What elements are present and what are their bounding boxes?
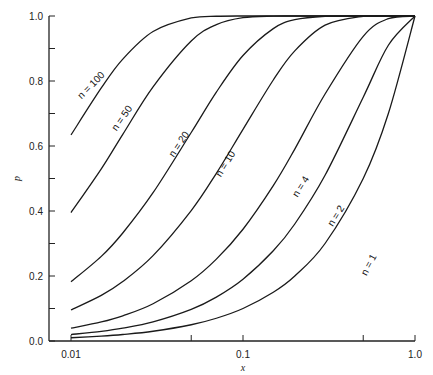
curve-label-n-20: n = 20 (166, 129, 191, 159)
curve-n-20 (71, 16, 415, 282)
curves (71, 16, 415, 338)
curve-label-n-1: n = 1 (358, 252, 378, 277)
y-tick-label: 0.0 (29, 336, 43, 347)
curve-n-2 (71, 16, 415, 335)
curve-label-n-10: n = 10 (213, 148, 237, 178)
y-tick-label: 1.0 (29, 11, 43, 22)
x-axis-title: x (240, 362, 246, 373)
x-tick-label: 1.0 (408, 349, 422, 360)
x-tick-label: 0.01 (61, 349, 81, 360)
probability-chart: 0.00.20.40.60.81.00.010.11.0xp n = 1n = … (0, 0, 433, 375)
y-tick-label: 0.2 (29, 271, 43, 282)
curve-labels: n = 1n = 2n = 4n = 10n = 20n = 50n = 100 (75, 69, 379, 277)
curve-label-n-100: n = 100 (75, 69, 107, 101)
curve-label-n-50: n = 50 (109, 103, 134, 133)
curve-n-1 (71, 16, 415, 338)
y-tick-label: 0.6 (29, 141, 43, 152)
curve-label-n-4: n = 4 (290, 174, 311, 199)
y-tick-label: 0.8 (29, 76, 43, 87)
y-tick-label: 0.4 (29, 206, 43, 217)
y-axis-title: p (11, 176, 22, 182)
x-tick-label: 0.1 (236, 349, 250, 360)
